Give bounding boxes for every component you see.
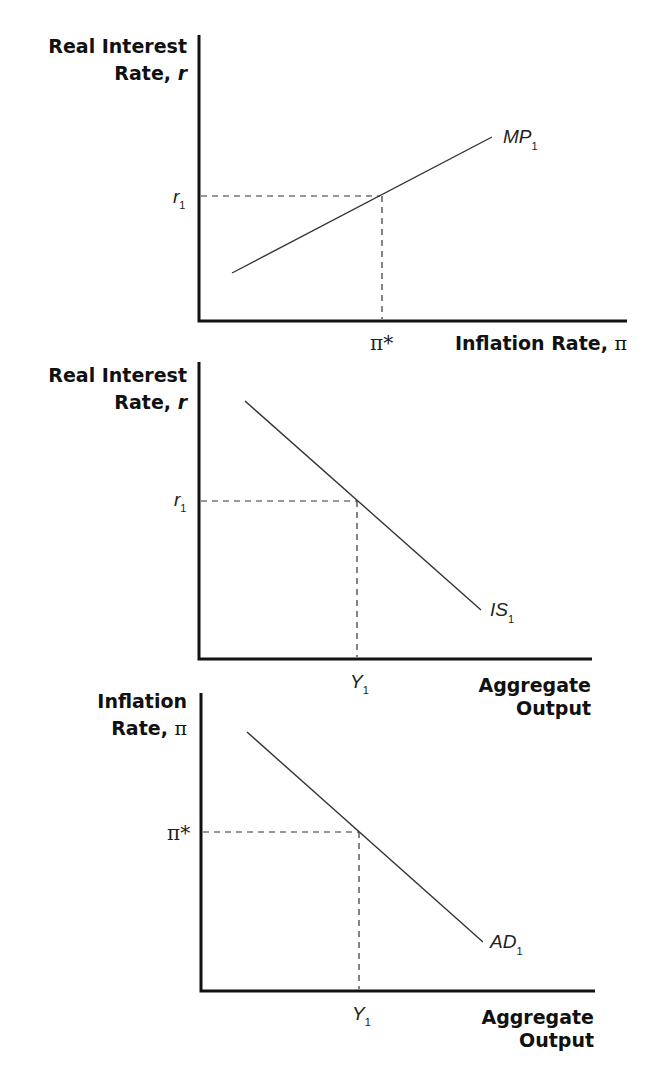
y-tick-r1: r1 bbox=[173, 186, 185, 211]
y-axis-title-line2: Rate, r bbox=[114, 391, 188, 413]
y-axis-title-line1: Real Interest bbox=[48, 364, 187, 386]
y-tick-pi-star: π* bbox=[167, 821, 190, 845]
ad-curve bbox=[247, 732, 483, 942]
x-axis-title-line2: Output bbox=[516, 697, 591, 719]
axes bbox=[201, 693, 595, 991]
panel-is: Real Interest Rate, r IS1 r1 Y1 Aggregat… bbox=[48, 362, 592, 719]
y-tick-r1: r1 bbox=[174, 489, 186, 514]
y-axis-title-line1: Real Interest bbox=[48, 35, 187, 57]
panel-ad: Inflation Rate, π AD1 π* Y1 Aggregate Ou… bbox=[97, 690, 595, 1051]
x-axis-title-line1: Aggregate bbox=[478, 674, 591, 696]
x-tick-y1: Y1 bbox=[350, 671, 369, 696]
mp-curve-label: MP1 bbox=[503, 126, 538, 152]
panel-mp: Real Interest Rate, r MP1 r1 π* Inflatio… bbox=[48, 35, 627, 355]
x-axis-title-line2: Output bbox=[519, 1029, 594, 1051]
ad-curve-label: AD1 bbox=[489, 931, 523, 957]
is-curve bbox=[245, 401, 481, 610]
y-axis-title-line1: Inflation bbox=[97, 690, 187, 712]
x-axis-title: Inflation Rate, π bbox=[455, 332, 627, 354]
y-axis-title-line2: Rate, π bbox=[111, 717, 187, 739]
x-tick-pi-star: π* bbox=[370, 331, 393, 355]
axes bbox=[199, 362, 592, 659]
y-axis-title-line2: Rate, r bbox=[114, 62, 188, 84]
x-axis-title-line1: Aggregate bbox=[481, 1006, 594, 1028]
mp-curve bbox=[232, 137, 492, 273]
three-panel-diagram: Real Interest Rate, r MP1 r1 π* Inflatio… bbox=[0, 0, 653, 1088]
is-curve-label: IS1 bbox=[490, 599, 514, 625]
x-tick-y1: Y1 bbox=[352, 1003, 371, 1028]
